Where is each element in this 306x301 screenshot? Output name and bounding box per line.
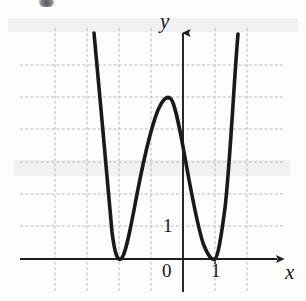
- x-tick-label-one: 1: [211, 261, 221, 280]
- grid-lines-horizontal: [20, 65, 285, 226]
- graph-figure: 0 1 1 y x: [0, 0, 306, 301]
- plot-canvas: [0, 0, 306, 301]
- origin-label: 0: [162, 261, 172, 280]
- y-tick-label-one: 1: [163, 216, 173, 235]
- x-axis-label: x: [285, 262, 294, 283]
- y-axis-label: y: [160, 11, 169, 32]
